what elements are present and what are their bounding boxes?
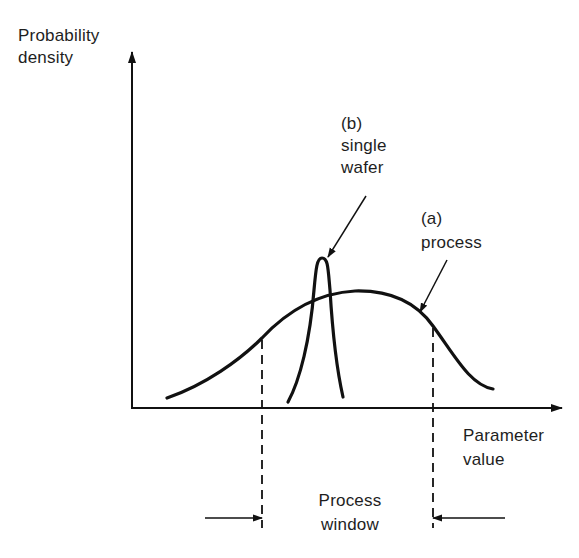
curve-a-label-line1: (a) — [421, 208, 482, 230]
curve-b-label: (b) single wafer — [341, 113, 387, 179]
single-wafer-distribution-curve — [288, 258, 343, 402]
process-window-label-line1: Process — [305, 490, 395, 512]
process-window-label: Process window — [305, 490, 395, 536]
single-wafer-pointer-arrow — [328, 196, 366, 257]
curve-b-label-line3: wafer — [341, 157, 387, 179]
curve-b-label-line1: (b) — [341, 113, 387, 135]
process-pointer-arrow — [420, 260, 447, 312]
y-axis-label-line2: density — [18, 47, 100, 69]
curve-a-label-line2: process — [421, 232, 482, 254]
x-axis-label-line1: Parameter — [463, 425, 544, 447]
x-axis-label: Parameter value — [463, 425, 544, 471]
process-window-label-line2: window — [305, 514, 395, 536]
x-axis-label-line2: value — [463, 449, 544, 471]
curve-b-label-line2: single — [341, 135, 387, 157]
y-axis-label-line1: Probability — [18, 25, 100, 47]
y-axis-label: Probability density — [18, 25, 100, 69]
curve-a-label: (a) process — [421, 208, 482, 254]
diagram-canvas — [0, 0, 579, 558]
